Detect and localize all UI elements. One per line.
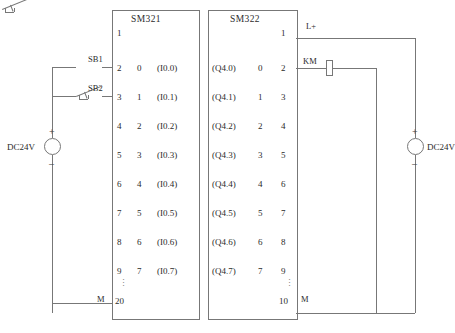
output-terminal-1: 1 [281, 28, 286, 38]
input-row-channel: 3 [137, 150, 142, 160]
output-row-address: (Q4.0) [212, 63, 236, 73]
input-row-terminal: 6 [117, 179, 122, 189]
output-module-ellipsis: ⋮ [285, 280, 294, 287]
plc-wiring-diagram: SM321 1 2 0 (I0.0) 3 1 (I0.1) 4 2 (I0.2)… [0, 0, 455, 333]
output-row-terminal: 2 [281, 63, 286, 73]
input-module-box [112, 10, 200, 320]
input-row-channel: 0 [137, 63, 142, 73]
output-row-channel: 0 [258, 63, 263, 73]
input-row-channel: 2 [137, 121, 142, 131]
input-return-rail [52, 303, 112, 304]
output-row-address: (Q4.4) [212, 179, 236, 189]
output-row-channel: 3 [258, 150, 263, 160]
right-source-minus: – [412, 160, 417, 168]
input-row-terminal: 3 [117, 92, 122, 102]
input-row-terminal: 5 [117, 150, 122, 160]
pushbutton-sb2-label: SB2 [88, 83, 103, 93]
load-supply-drop-upper [415, 38, 416, 138]
sb1-left-lead [52, 67, 76, 68]
sb1-plunger-left [5, 8, 6, 12]
input-terminal-1: 1 [117, 28, 122, 38]
input-row-address: (I0.3) [157, 150, 177, 160]
km-contactor-label: KM [303, 56, 317, 66]
left-power-source [44, 138, 61, 155]
output-row-address: (Q4.5) [212, 208, 236, 218]
output-row-channel: 6 [258, 237, 263, 247]
input-row-channel: 1 [137, 92, 142, 102]
pushbutton-sb1-label: SB1 [88, 54, 103, 64]
right-source-plus: + [412, 128, 418, 136]
output-row-terminal: 5 [281, 150, 286, 160]
input-row-channel: 6 [137, 237, 142, 247]
output-row-address: (Q4.2) [212, 121, 236, 131]
sb2-plunger-right [88, 95, 89, 99]
left-source-minus: – [49, 160, 54, 168]
sb2-plunger-left [79, 95, 80, 99]
left-bus-lower [52, 155, 53, 313]
sb2-plunger-bar [79, 99, 88, 100]
km-contactor-coil [326, 60, 333, 76]
output-row-address: (Q4.6) [212, 237, 236, 247]
output-row-terminal: 3 [281, 92, 286, 102]
input-row-address: (I0.5) [157, 208, 177, 218]
output-terminal-10: 10 [279, 296, 288, 306]
input-row-address: (I0.0) [157, 63, 177, 73]
input-module-ellipsis: ⋮ [119, 280, 128, 287]
left-source-plus: + [49, 128, 55, 136]
output-module-power-label: L+ [306, 21, 316, 31]
input-row-address: (I0.7) [157, 266, 177, 276]
output-row-address: (Q4.7) [212, 266, 236, 276]
sb1-plunger-bar [5, 12, 14, 13]
output-row-terminal: 6 [281, 179, 286, 189]
output-row-channel: 5 [258, 208, 263, 218]
sb2-left-lead [52, 96, 76, 97]
sb1-right-lead [102, 67, 112, 68]
input-row-channel: 4 [137, 179, 142, 189]
input-row-channel: 5 [137, 208, 142, 218]
output-row-terminal: 9 [281, 266, 286, 276]
input-row-address: (I0.6) [157, 237, 177, 247]
sb1-plunger-right [14, 8, 15, 12]
input-row-terminal: 7 [117, 208, 122, 218]
output-row-channel: 4 [258, 179, 263, 189]
pushbutton-sb1[interactable] [0, 0, 30, 18]
load-supply-wire [296, 38, 415, 39]
input-row-address: (I0.4) [157, 179, 177, 189]
left-source-label: DC24V [7, 142, 35, 152]
input-row-terminal: 2 [117, 63, 122, 73]
km-return-drop [376, 68, 377, 313]
input-row-address: (I0.2) [157, 121, 177, 131]
input-row-channel: 7 [137, 266, 142, 276]
output-return-rail [296, 313, 415, 314]
output-row-channel: 7 [258, 266, 263, 276]
input-row-terminal: 9 [117, 266, 122, 276]
input-module-title: SM321 [131, 14, 161, 24]
output-row-terminal: 8 [281, 237, 286, 247]
output-row-terminal: 7 [281, 208, 286, 218]
output-row-channel: 1 [258, 92, 263, 102]
input-terminal-20: 20 [115, 296, 124, 306]
km-branch-right [333, 68, 376, 69]
input-row-address: (I0.1) [157, 92, 177, 102]
input-row-terminal: 4 [117, 121, 122, 131]
output-module-title: SM322 [230, 14, 260, 24]
output-row-terminal: 4 [281, 121, 286, 131]
input-row-terminal: 8 [117, 237, 122, 247]
right-source-label: DC24V [427, 142, 455, 152]
load-supply-drop-lower [415, 155, 416, 313]
km-branch-left [296, 68, 326, 69]
output-row-channel: 2 [258, 121, 263, 131]
right-power-source [407, 138, 424, 155]
output-module-ground-label: M [301, 294, 309, 304]
output-row-address: (Q4.1) [212, 92, 236, 102]
output-row-address: (Q4.3) [212, 150, 236, 160]
